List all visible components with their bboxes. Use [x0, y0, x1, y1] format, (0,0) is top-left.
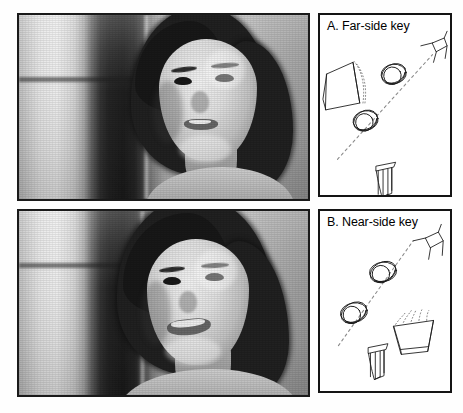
photo-bottom-content — [19, 211, 308, 395]
wire-chair-icon — [421, 31, 447, 62]
photo-top-content — [19, 15, 308, 199]
eye-left — [163, 277, 181, 285]
face-shadow — [153, 81, 183, 143]
teeth — [189, 120, 211, 124]
cone-icon — [394, 310, 434, 355]
ringed-ball-icon — [346, 101, 386, 139]
cone-icon — [323, 61, 366, 110]
photo-top — [17, 13, 310, 201]
ringed-ball-icon — [362, 252, 404, 292]
figure-root: A. Far-side key — [0, 0, 463, 413]
person-top — [19, 15, 308, 199]
photo-bottom — [17, 209, 310, 397]
ringed-ball-icon — [333, 293, 375, 333]
face-shadow — [141, 281, 171, 345]
dashed-midline — [337, 55, 432, 160]
panel-a-drawing — [320, 15, 450, 195]
chin-highlight — [165, 337, 221, 365]
nose — [179, 291, 197, 313]
panel-far-side-key: A. Far-side key — [318, 13, 452, 197]
panel-b-drawing — [320, 211, 450, 391]
face-highlight — [195, 249, 237, 291]
chin-highlight — [179, 135, 231, 163]
wire-chair-icon — [413, 224, 443, 259]
ringed-ball-icon — [374, 55, 414, 94]
person-bottom — [19, 211, 308, 395]
column-icon — [376, 162, 395, 195]
dashed-midline — [338, 241, 413, 346]
column-icon — [369, 344, 388, 380]
panel-near-side-key: B. Near-side key — [318, 209, 452, 393]
eye-left — [174, 77, 192, 85]
nose — [191, 91, 209, 113]
face-highlight — [205, 49, 245, 89]
